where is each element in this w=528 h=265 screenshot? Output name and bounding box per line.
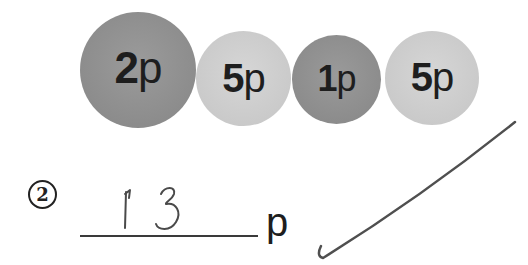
handwritten-answer[interactable] [110,180,200,240]
coin-1p: 1p [292,35,381,124]
question-number: 2 [28,180,57,209]
coin-2p: 2p [80,12,196,128]
coin-label: 5p [411,57,454,97]
coin-5p: 5p [196,31,291,126]
coin-label: 1p [317,61,355,97]
coin-label: 5p [222,58,265,98]
answer-line [80,235,258,237]
coin-5p: 5p [385,31,479,125]
coin-label: 2p [115,46,162,90]
answer-unit: p [266,202,288,242]
